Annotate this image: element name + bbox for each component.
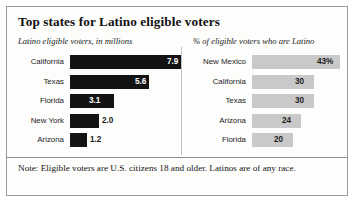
page-title: Top states for Latino eligible voters — [18, 14, 220, 30]
bar-row: New York 2.0 — [18, 114, 181, 129]
bar-row: Florida 3.1 — [18, 94, 181, 109]
chart-figure: Top states for Latino eligible voters La… — [6, 6, 348, 196]
bar-row: California 30 — [193, 75, 339, 90]
bar-row: Arizona 1.2 — [18, 133, 181, 148]
bar-value-label: 7.9 — [167, 57, 178, 66]
bar-row-label: Texas — [18, 77, 64, 86]
chart-note: Note: Eligible voters are U.S. citizens … — [18, 162, 335, 176]
bar-row-label: Arizona — [193, 116, 246, 125]
bar-row: New Mexico 43% — [193, 55, 339, 70]
bar-value-label: 43% — [317, 57, 333, 66]
bar-value-label: 1.2 — [90, 135, 101, 144]
bar-row: Texas 5.6 — [18, 75, 181, 90]
bar-row-label: Arizona — [18, 135, 64, 144]
bar-rect — [70, 55, 181, 69]
bar-value-label: 30 — [295, 77, 304, 86]
bar-rect — [252, 75, 314, 89]
bar-row: California 7.9 — [18, 55, 181, 70]
bar-row-label: California — [193, 77, 246, 86]
bar-row-label: Texas — [193, 96, 246, 105]
bar-row-label: New York — [18, 116, 64, 125]
bar-rect — [252, 114, 301, 128]
bar-row-label: Florida — [193, 135, 246, 144]
bar-value-label: 5.6 — [135, 77, 146, 86]
note-divider — [7, 157, 347, 158]
bar-list-percent: New Mexico 43% California 30 Texas 30 Ar… — [193, 55, 339, 153]
bar-row: Arizona 24 — [193, 114, 339, 129]
bar-row: Florida 20 — [193, 133, 339, 148]
panel-subtitle-millions: Latino eligible voters, in millions — [18, 36, 132, 46]
bar-row-label: New Mexico — [193, 57, 246, 66]
bar-row-label: Florida — [18, 96, 64, 105]
bar-value-label: 20 — [274, 135, 283, 144]
bar-rect — [70, 114, 99, 128]
bar-list-millions: California 7.9 Texas 5.6 Florida 3.1 New… — [18, 55, 181, 153]
panel-divider — [181, 47, 182, 155]
bar-rect — [252, 94, 314, 108]
bar-row-label: California — [18, 57, 64, 66]
bar-value-label: 3.1 — [89, 96, 100, 105]
bar-value-label: 2.0 — [102, 116, 113, 125]
bar-value-label: 24 — [282, 116, 291, 125]
panel-subtitle-percent: % of eligible voters who are Latino — [193, 36, 314, 46]
bar-rect — [70, 133, 87, 147]
bar-row: Texas 30 — [193, 94, 339, 109]
bar-value-label: 30 — [295, 96, 304, 105]
bar-rect — [252, 133, 293, 147]
